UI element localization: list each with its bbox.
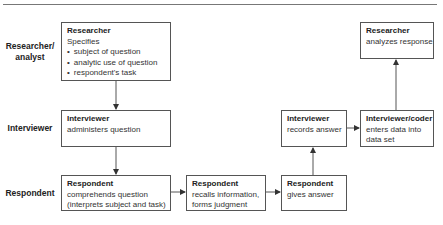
flow-arrows: [0, 0, 443, 225]
